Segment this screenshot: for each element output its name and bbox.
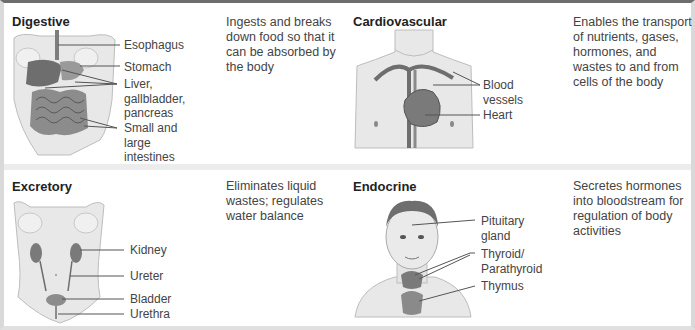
label-urethra: Urethra [130,307,170,322]
label-thymus: Thymus [481,279,524,294]
system-description: Ingests and breaks down food so that it … [226,15,336,75]
label-intestines: Small and large intestines [124,121,177,165]
cardiovascular-panel: Cardiovascular Blood vessels Heart Enabl… [345,0,695,165]
system-description: Secretes hormones into bloodstream for r… [573,179,683,239]
label-ureter: Ureter [130,269,163,284]
label-bladder: Bladder [130,292,171,307]
label-blood-vessels: Blood vessels [483,78,523,107]
excretory-panel: Excretory Kidney Ureter Bladder Urethra … [0,167,345,330]
label-stomach: Stomach [124,60,171,75]
digestive-panel: Digestive Esophagus Stomach Liver, gallb… [0,0,345,165]
label-esophagus: Esophagus [124,38,184,53]
label-pituitary-gland: Pituitary gland [481,214,524,243]
label-liver-gallbladder-pancreas: Liver, gallbladder, pancreas [124,77,184,121]
label-heart: Heart [483,108,512,123]
system-description: Eliminates liquid wastes; regulates wate… [226,179,323,224]
system-description: Enables the transport of nutrients, gase… [573,15,692,90]
label-kidney: Kidney [130,243,167,258]
endocrine-panel: Endocrine Pituitary gland Thyroid/ Parat… [345,167,695,330]
label-thyroid-parathyroid: Thyroid/ Parathyroid [481,247,542,276]
